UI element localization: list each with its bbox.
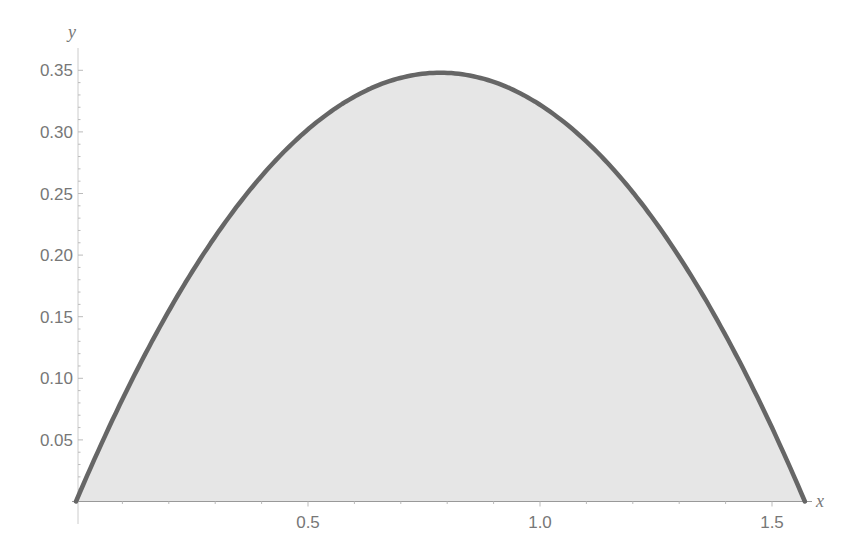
y-tick-label: 0.10 (40, 369, 73, 388)
x-axis-label: x (815, 491, 824, 511)
y-tick-label: 0.20 (40, 246, 73, 265)
x-tick-label: 0.5 (296, 513, 320, 532)
x-tick-label: 1.0 (528, 513, 552, 532)
y-axis-label: y (66, 22, 76, 42)
x-tick-label: 1.5 (760, 513, 784, 532)
y-tick-label: 0.25 (40, 185, 73, 204)
y-tick-label: 0.05 (40, 431, 73, 450)
y-tick-label: 0.35 (40, 61, 73, 80)
y-tick-label: 0.30 (40, 123, 73, 142)
y-tick-label: 0.15 (40, 308, 73, 327)
chart-canvas: 0.050.100.150.200.250.300.350.51.01.5 x … (0, 0, 861, 551)
